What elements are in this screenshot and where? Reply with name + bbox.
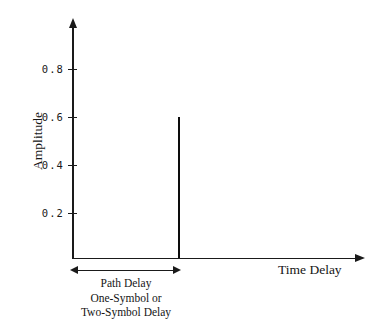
path-delay-caption-line-3: Two-Symbol Delay [65,305,187,320]
path-delay-span-line [77,270,174,271]
x-axis-title: Time Delay [278,262,342,278]
path-delay-caption-line-1: Path Delay [65,276,187,291]
impulse-bar [178,117,180,258]
y-tick-mark-3 [68,213,77,214]
path-delay-span-right-arrow-icon [173,266,181,274]
y-tick-label-3: 0.2 [0,207,64,219]
y-axis-title: Amplitude [30,91,46,191]
path-delay-caption-line-2: One-Symbol or [65,291,187,306]
y-tick-mark-1 [68,117,77,118]
y-tick-mark-0 [68,69,77,70]
impulse-response-chart: 0.8 0.6 0.4 0.2 Amplitude Time Delay Pat… [0,0,371,334]
path-delay-caption: Path Delay One-Symbol or Two-Symbol Dela… [65,276,187,320]
y-tick-label-0: 0.8 [0,63,64,75]
x-axis-line [72,258,360,260]
y-tick-mark-2 [68,165,77,166]
path-delay-span-left-arrow-icon [70,266,78,274]
y-axis-line [72,26,74,259]
y-axis-arrow-icon [69,18,77,28]
x-axis-arrow-icon [355,254,365,262]
